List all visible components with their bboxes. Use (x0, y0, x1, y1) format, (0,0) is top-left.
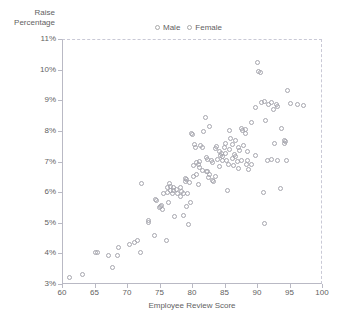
data-point (200, 145, 205, 150)
y-tick-label: 3% (4, 280, 56, 288)
data-point (185, 191, 190, 196)
y-tick-label: 9% (4, 96, 56, 104)
data-point (211, 179, 216, 184)
data-point (172, 214, 177, 219)
x-tick-label: 75 (145, 288, 175, 297)
data-point (279, 126, 284, 131)
x-tick-mark (322, 284, 323, 288)
data-point (269, 100, 274, 105)
data-point (295, 102, 300, 107)
data-point (284, 158, 289, 163)
data-point (253, 105, 258, 110)
data-point (201, 129, 206, 134)
data-point (226, 162, 231, 167)
legend-item-male[interactable]: Male (155, 23, 180, 32)
scatter-chart: Raise Percentage Male Female 3%4%5%6%7%8… (0, 0, 351, 322)
data-point (184, 204, 189, 209)
data-point (285, 88, 290, 93)
data-point (67, 275, 72, 280)
x-axis-title: Employee Review Score (62, 301, 322, 310)
data-point (258, 70, 263, 75)
data-point (204, 155, 209, 160)
data-point (95, 250, 100, 255)
data-point (115, 253, 120, 258)
data-point (207, 124, 212, 129)
data-point (249, 120, 254, 125)
data-point (272, 141, 277, 146)
data-point (241, 143, 246, 148)
data-point (261, 190, 266, 195)
data-point (166, 200, 171, 205)
data-point (223, 141, 228, 146)
data-point (181, 213, 186, 218)
data-point (301, 103, 306, 108)
data-point (282, 141, 287, 146)
data-point (116, 245, 121, 250)
data-point (227, 128, 232, 133)
y-tick-label: 11% (4, 35, 56, 43)
y-tick-label: 5% (4, 219, 56, 227)
data-point (217, 164, 222, 169)
x-tick-mark (257, 284, 258, 288)
data-point (236, 166, 241, 171)
x-tick-label: 90 (242, 288, 272, 297)
x-tick-label: 95 (275, 288, 305, 297)
data-point (269, 157, 274, 162)
data-point (253, 153, 258, 158)
data-point (161, 191, 166, 196)
data-point (243, 127, 248, 132)
data-point (263, 118, 268, 123)
data-point (222, 145, 227, 150)
x-tick-label: 65 (80, 288, 110, 297)
data-point (186, 222, 191, 227)
data-point (275, 104, 280, 109)
data-point (205, 169, 210, 174)
x-tick-mark (192, 284, 193, 288)
data-point (288, 101, 293, 106)
data-point (138, 250, 143, 255)
data-point (223, 151, 228, 156)
x-tick-label: 80 (177, 288, 207, 297)
data-point (110, 265, 115, 270)
x-tick-label: 100 (307, 288, 337, 297)
data-point (190, 132, 195, 137)
chart-legend: Male Female (155, 21, 222, 33)
data-point (210, 160, 215, 165)
data-point (152, 233, 157, 238)
data-point (249, 162, 254, 167)
x-tick-mark (290, 284, 291, 288)
y-tick-label: 6% (4, 188, 56, 196)
data-point (225, 188, 230, 193)
data-point (106, 253, 111, 258)
legend-label-male: Male (163, 23, 180, 32)
y-tick-label: 10% (4, 66, 56, 74)
x-tick-mark (225, 284, 226, 288)
data-point (246, 167, 251, 172)
data-point (196, 182, 201, 187)
data-point (255, 60, 260, 65)
data-points-layer (63, 40, 321, 283)
y-axis-title: Raise Percentage (0, 8, 55, 28)
data-point (197, 159, 202, 164)
data-point (278, 186, 283, 191)
data-point (194, 172, 199, 177)
legend-item-female[interactable]: Female (187, 23, 222, 32)
data-point (213, 174, 218, 179)
y-tick-label: 7% (4, 158, 56, 166)
data-point (262, 221, 267, 226)
legend-marker-male-circle-icon (155, 25, 160, 30)
data-point (233, 154, 238, 159)
legend-label-female: Female (195, 23, 222, 32)
x-tick-mark (62, 284, 63, 288)
data-point (146, 218, 151, 223)
data-point (227, 147, 232, 152)
data-point (203, 115, 208, 120)
data-point (217, 149, 222, 154)
x-tick-mark (95, 284, 96, 288)
x-tick-label: 60 (47, 288, 77, 297)
data-point (220, 158, 225, 163)
data-point (245, 149, 250, 154)
legend-marker-female-circle-icon (187, 25, 192, 30)
y-tick-label: 4% (4, 249, 56, 257)
data-point (154, 198, 159, 203)
